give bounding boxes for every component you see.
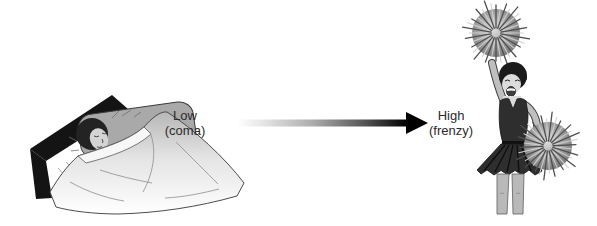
- low-state-text: (coma): [145, 123, 225, 138]
- scene-illustration: [0, 0, 597, 226]
- high-arousal-label: High (frenzy): [411, 108, 491, 138]
- low-arousal-label: Low (coma): [145, 108, 225, 138]
- low-to-high-gradient-arrow: [237, 112, 428, 134]
- high-state-text: (frenzy): [411, 123, 491, 138]
- low-level-text: Low: [145, 108, 225, 123]
- cheerleader-torso: [499, 96, 528, 145]
- arrow-shaft: [237, 120, 407, 127]
- high-level-text: High: [411, 108, 491, 123]
- upper-pom-pom-icon: [463, 1, 530, 65]
- arousal-continuum-figure: Low (coma) High (frenzy): [0, 0, 597, 226]
- cheerleader-legs: [497, 174, 524, 214]
